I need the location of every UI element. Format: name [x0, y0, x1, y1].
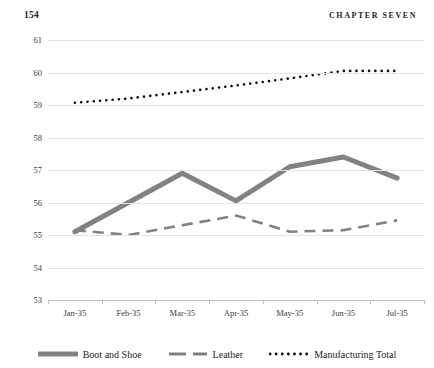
legend-item[interactable]: Leather: [168, 349, 244, 360]
y-axis-tick-label: 57: [2, 166, 42, 175]
x-axis-tick-label: Mar-35: [170, 308, 195, 318]
legend-item[interactable]: Manufacturing Total: [269, 349, 396, 360]
legend-label: Manufacturing Total: [314, 349, 396, 360]
x-axis-tick: [263, 300, 264, 304]
x-axis-tick: [424, 300, 425, 304]
y-axis-tick-label: 58: [2, 134, 42, 143]
legend-swatch-dashed: [168, 349, 208, 359]
y-axis-tick-label: 55: [2, 231, 42, 240]
gridline: [48, 268, 424, 269]
x-axis-tick-label: Apr-35: [224, 308, 248, 318]
gridline: [48, 138, 424, 139]
page-number: 154: [24, 10, 39, 20]
y-axis-labels: 535455565758596061: [0, 40, 42, 300]
plot-area: [48, 40, 424, 300]
x-axis-tick: [155, 300, 156, 304]
y-axis-tick-label: 60: [2, 69, 42, 78]
y-axis-tick-label: 53: [2, 296, 42, 305]
legend-swatch-thick-solid: [38, 349, 78, 359]
x-axis-ticks: [48, 300, 424, 305]
series-line-leather: [75, 216, 397, 236]
gridline: [48, 235, 424, 236]
gridline: [48, 73, 424, 74]
x-axis-tick-label: Jul-35: [387, 308, 408, 318]
legend-swatch-dotted: [269, 349, 309, 359]
x-axis-tick-label: May-35: [276, 308, 303, 318]
x-axis-tick: [370, 300, 371, 304]
x-axis-tick-label: Feb-35: [117, 308, 141, 318]
running-head: 154 CHAPTER SEVEN: [0, 10, 434, 28]
chapter-title: CHAPTER SEVEN: [329, 11, 417, 20]
x-axis-tick: [48, 300, 49, 304]
x-axis-tick-label: Jun-35: [332, 308, 355, 318]
gridline: [48, 105, 424, 106]
gridline: [48, 203, 424, 204]
gridline: [48, 40, 424, 41]
series-line-boot-and-shoe: [75, 157, 397, 232]
legend-label: Boot and Shoe: [83, 349, 142, 360]
x-axis-labels: Jan-35Feb-35Mar-35Apr-35May-35Jun-35Jul-…: [48, 308, 424, 322]
line-chart: 535455565758596061 Jan-35Feb-35Mar-35Apr…: [0, 28, 434, 340]
x-axis-tick: [102, 300, 103, 304]
gridline: [48, 170, 424, 171]
book-page: 154 CHAPTER SEVEN 535455565758596061 Jan…: [0, 0, 434, 368]
y-axis-tick-label: 54: [2, 264, 42, 273]
chart-legend: Boot and ShoeLeatherManufacturing Total: [0, 344, 434, 364]
x-axis-tick-label: Jan-35: [64, 308, 87, 318]
legend-item[interactable]: Boot and Shoe: [38, 349, 142, 360]
legend-label: Leather: [213, 349, 244, 360]
y-axis-tick-label: 59: [2, 101, 42, 110]
series-line-manufacturing-total: [75, 71, 397, 103]
y-axis-tick-label: 56: [2, 199, 42, 208]
x-axis-tick: [209, 300, 210, 304]
x-axis-tick: [317, 300, 318, 304]
y-axis-tick-label: 61: [2, 36, 42, 45]
